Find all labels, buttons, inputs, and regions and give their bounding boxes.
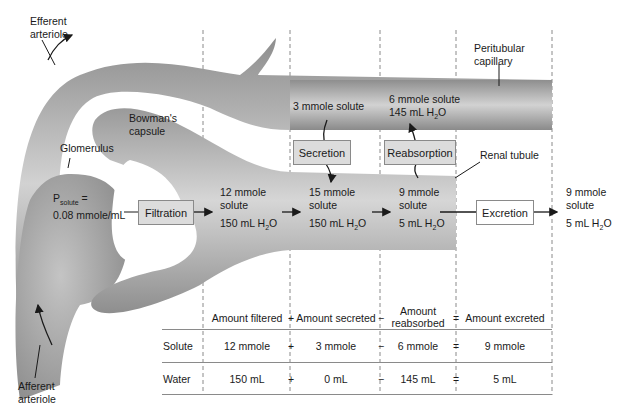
reabsorbed-amount-label: 6 mmole solute 145 mL H2O — [389, 93, 460, 123]
cell-reabsorbed: 6 mmole — [382, 340, 454, 352]
secretion-box: Secretion — [293, 140, 351, 165]
reabsorption-box: Reabsorption — [384, 140, 456, 165]
cell-reabsorbed: 145 mL — [382, 373, 454, 385]
after-secretion-stage-value: 15 mmolesolute 150 mL H2O — [309, 186, 366, 234]
header-amount-filtered: Amount filtered — [204, 312, 290, 324]
cell-excreted: 9 mmole — [458, 340, 552, 352]
excreted-stage-value: 9 mmolesolute 5 mL H2O — [566, 186, 612, 234]
cell-excreted: 5 mL — [458, 373, 552, 385]
row-label: Solute — [163, 340, 193, 352]
cell-secreted: 3 mmole — [292, 340, 380, 352]
afferent-arteriole-label: Afferentarteriole — [18, 380, 56, 406]
cell-filtered: 12 mmole — [204, 340, 290, 352]
cell-secreted: 0 mL — [292, 373, 380, 385]
cell-filtered: 150 mL — [204, 373, 290, 385]
peritubular-capillary-label: Peritubularcapillary — [474, 42, 525, 68]
header-amount-secreted: Amount secreted — [292, 312, 380, 324]
efferent-arteriole-label: Efferentarteriole — [30, 15, 68, 41]
excretion-box: Excretion — [476, 200, 534, 225]
after-reabsorption-stage-value: 9 mmolesolute 5 mL H2O — [399, 186, 445, 234]
filtered-stage-value: 12 mmolesolute 150 mL H2O — [220, 186, 277, 234]
header-amount-reabsorbed: Amountreabsorbed — [382, 305, 454, 329]
bowmans-capsule-label: Bowman'scapsule — [129, 112, 177, 138]
p-solute-label: Psolute = 0.08 mmole/mL — [53, 192, 125, 222]
header-amount-excreted: Amount excreted — [458, 312, 552, 324]
row-label: Water — [163, 373, 191, 385]
renal-tubule-label: Renal tubule — [480, 149, 539, 162]
filtration-box: Filtration — [138, 200, 194, 225]
glomerulus-label: Glomerulus — [60, 142, 114, 155]
secreted-amount-label: 3 mmole solute — [293, 100, 364, 113]
